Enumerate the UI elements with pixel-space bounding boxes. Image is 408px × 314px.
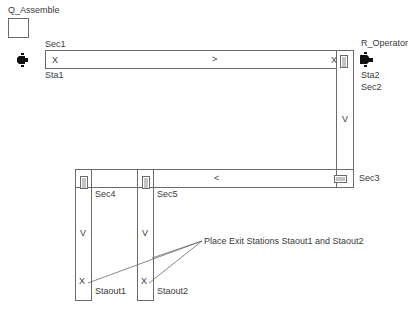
- station-label-sta2: Sta2: [361, 70, 380, 80]
- operator-icon-right[interactable]: [360, 52, 373, 67]
- section-label-sec4: Sec4: [95, 189, 116, 199]
- queue-label: Q_Assemble: [8, 5, 60, 15]
- direction-arrow-right: V: [342, 114, 348, 124]
- annotation-text: Place Exit Stations Staout1 and Staout2: [204, 236, 364, 246]
- direction-arrow-top: >: [212, 54, 217, 64]
- direction-arrow-col2: V: [142, 228, 148, 238]
- station-label-sta1: Sta1: [45, 70, 64, 80]
- section-label-sec2: Sec2: [361, 82, 382, 92]
- operator-label: R_Operator: [361, 38, 408, 48]
- station-marker-sta1[interactable]: X: [52, 55, 58, 65]
- section-sec1[interactable]: [46, 51, 354, 69]
- transfer-symbol-sec2: [341, 56, 348, 68]
- section-label-sec1: Sec1: [45, 39, 66, 49]
- station-marker-staout1[interactable]: X: [79, 276, 85, 286]
- operator-icon-left[interactable]: [17, 53, 28, 67]
- station-marker-sta2[interactable]: X: [331, 55, 337, 65]
- transfer-symbol-sec4: [81, 177, 88, 189]
- transfer-symbol-sec3: [335, 176, 347, 183]
- station-label-staout2: Staout2: [157, 286, 188, 296]
- direction-arrow-bottom: <: [214, 173, 219, 183]
- queue-box[interactable]: [9, 19, 29, 38]
- station-label-staout1: Staout1: [95, 286, 126, 296]
- station-marker-staout2[interactable]: X: [141, 276, 147, 286]
- section-label-sec5: Sec5: [157, 189, 178, 199]
- direction-arrow-col1: V: [80, 228, 86, 238]
- transfer-symbol-sec5: [143, 177, 150, 189]
- section-label-sec3: Sec3: [359, 173, 380, 183]
